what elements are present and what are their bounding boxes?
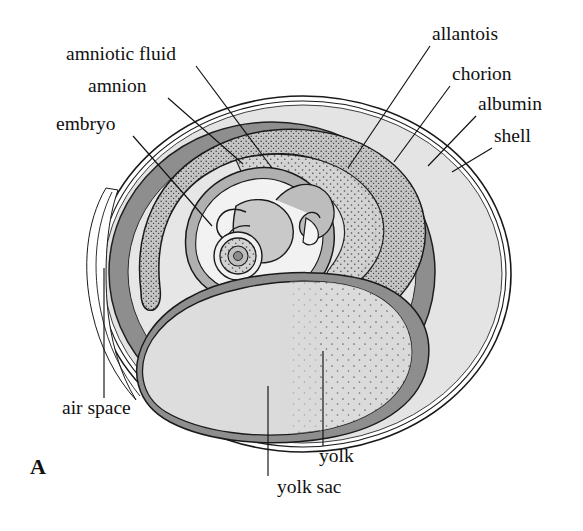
egg-cross-section-svg: amniotic fluid amnion embryo allantois c…: [0, 0, 583, 531]
label-chorion: chorion: [452, 63, 512, 84]
label-shell: shell: [494, 125, 531, 146]
label-allantois: allantois: [432, 23, 498, 44]
label-amniotic-fluid: amniotic fluid: [66, 43, 176, 64]
panel-letter-a: A: [30, 454, 46, 479]
label-air-space: air space: [62, 397, 131, 418]
label-yolk-sac: yolk sac: [277, 476, 342, 497]
label-amnion: amnion: [88, 75, 147, 96]
label-embryo: embryo: [56, 113, 116, 134]
label-yolk: yolk: [319, 445, 354, 466]
egg-diagram-figure: amniotic fluid amnion embryo allantois c…: [0, 0, 583, 531]
label-albumin: albumin: [478, 93, 542, 114]
